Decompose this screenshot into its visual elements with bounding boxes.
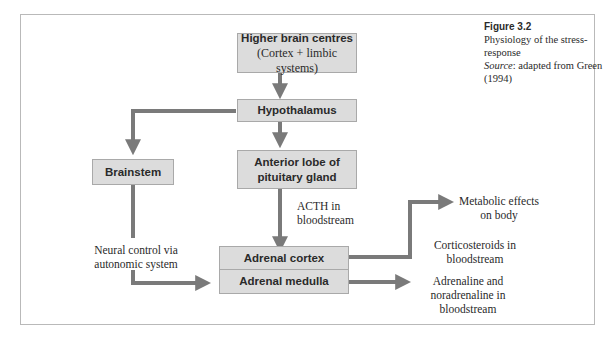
label-neural-control: Neural control via autonomic system [88, 243, 184, 271]
pituitary-line1: Anterior lobe of [254, 155, 340, 170]
label-metabolic-effects: Metabolic effects on body [450, 194, 548, 222]
acth-line2: bloodstream [297, 213, 354, 227]
metabolic-line2: on body [450, 208, 548, 222]
metabolic-line1: Metabolic effects [450, 194, 548, 208]
arrow-neural-to-medulla [133, 270, 204, 283]
box-anterior-pituitary: Anterior lobe of pituitary gland [237, 150, 357, 189]
source-label: Source [484, 60, 513, 71]
neural-line2: autonomic system [88, 257, 184, 271]
box-brainstem: Brainstem [92, 159, 174, 185]
higher-brain-title: Higher brain centres [241, 31, 353, 46]
adrenaline-line1: Adrenaline and [418, 274, 518, 288]
hypothalamus-title: Hypothalamus [257, 103, 336, 118]
corticosteroids-line1: Corticosteroids in [420, 238, 530, 252]
figure-source: Source: adapted from Green (1994) [484, 59, 616, 85]
label-acth: ACTH in bloodstream [297, 199, 354, 227]
adrenaline-line2: noradrenaline in [418, 288, 518, 302]
brainstem-title: Brainstem [105, 165, 161, 180]
arrow-hypothalamus-to-brainstem [133, 111, 236, 148]
figure-title: Physiology of the stress-response [484, 33, 616, 59]
box-hypothalamus: Hypothalamus [237, 99, 357, 122]
adrenal-medulla-title: Adrenal medulla [239, 274, 328, 289]
figure-caption: Figure 3.2 Physiology of the stress-resp… [484, 20, 616, 85]
figure-number: Figure 3.2 [484, 20, 616, 33]
acth-line1: ACTH in [297, 199, 354, 213]
box-adrenal-medulla: Adrenal medulla [219, 269, 349, 294]
higher-brain-subtitle: (Cortex + limbic systems) [238, 46, 356, 76]
label-adrenaline: Adrenaline and noradrenaline in bloodstr… [418, 274, 518, 316]
corticosteroids-line2: bloodstream [420, 252, 530, 266]
neural-line1: Neural control via [88, 243, 184, 257]
pituitary-line2: pituitary gland [257, 170, 336, 185]
box-adrenal-cortex: Adrenal cortex [219, 246, 349, 270]
label-corticosteroids: Corticosteroids in bloodstream [420, 238, 530, 266]
box-higher-brain-centres: Higher brain centres (Cortex + limbic sy… [237, 33, 357, 73]
adrenaline-line3: bloodstream [418, 302, 518, 316]
adrenal-cortex-title: Adrenal cortex [244, 251, 325, 266]
